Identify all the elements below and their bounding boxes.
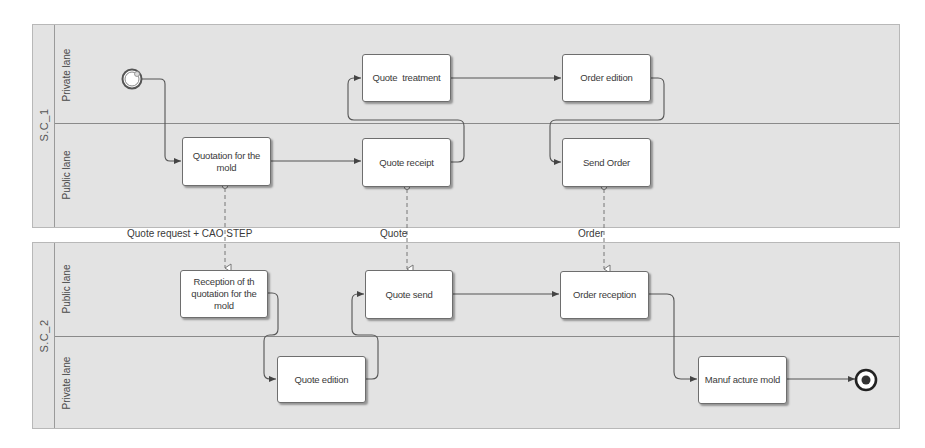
message-label-quote-request: Quote request + CAO STEP <box>127 228 252 239</box>
task-order-reception[interactable]: Order reception <box>560 271 649 319</box>
task-send-order[interactable]: Send Order <box>562 138 651 187</box>
task-quotation-for-mold[interactable]: Quotation for the mold <box>182 137 271 186</box>
end-event-icon <box>856 370 876 390</box>
task-quote-treatment[interactable]: Quote treatment <box>362 54 451 102</box>
task-quote-send[interactable]: Quote send <box>365 270 453 319</box>
task-reception-quotation[interactable]: Reception of th quotation for the mold <box>180 270 268 318</box>
sequence-flow-order-reception-to-manufacture <box>648 294 697 379</box>
message-label-quote: Quote <box>380 228 407 239</box>
start-event-icon <box>123 70 142 89</box>
message-label-order: Order <box>578 228 604 239</box>
task-quote-receipt[interactable]: Quote receipt <box>362 138 451 187</box>
task-quote-edition[interactable]: Quote edition <box>277 356 366 403</box>
sequence-flow-start-to-quotation <box>141 79 181 161</box>
task-manufacture-mold[interactable]: Manuf acture mold <box>698 356 787 404</box>
task-order-edition[interactable]: Order edition <box>562 54 651 102</box>
